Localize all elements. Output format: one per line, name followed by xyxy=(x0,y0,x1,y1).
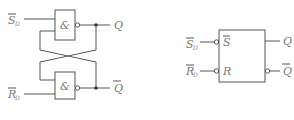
and-symbol: & xyxy=(60,80,70,93)
inversion-bubble-icon xyxy=(75,86,79,90)
output-label-qbar: Q xyxy=(113,81,123,95)
symbol-output-label-q: Q xyxy=(283,35,292,48)
nand-latch-circuit: S D & Q & Q R D xyxy=(7,10,123,101)
svg-text:Q: Q xyxy=(114,82,123,95)
svg-text:D: D xyxy=(14,94,20,101)
inversion-bubble-icon xyxy=(214,69,218,73)
rs-latch-diagram: S D & Q & Q R D xyxy=(0,0,294,120)
pin-label-r: R xyxy=(222,65,231,78)
inversion-bubble-icon xyxy=(214,40,218,44)
symbol-output-label-qbar: Q xyxy=(282,64,292,78)
svg-text:D: D xyxy=(192,44,198,51)
inversion-bubble-icon xyxy=(75,23,79,27)
input-label-rd: R D xyxy=(7,88,20,101)
svg-text:Q: Q xyxy=(283,65,292,78)
symbol-input-label-sd: S D xyxy=(186,38,198,51)
output-label-q: Q xyxy=(114,19,123,32)
rs-latch-symbol: S D R D S R Q Q xyxy=(185,30,292,82)
and-symbol: & xyxy=(60,19,70,32)
input-label-sd: S D xyxy=(8,14,20,27)
svg-text:D: D xyxy=(14,20,20,27)
symbol-input-label-rd: R D xyxy=(185,65,198,78)
svg-text:D: D xyxy=(192,71,198,78)
inversion-bubble-icon xyxy=(265,69,269,73)
pin-label-s: S xyxy=(223,36,231,49)
